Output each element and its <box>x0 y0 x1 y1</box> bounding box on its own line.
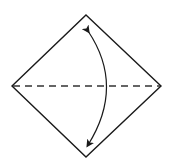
origami-diagram <box>0 0 172 168</box>
fold-unfold-arrow <box>88 31 107 145</box>
